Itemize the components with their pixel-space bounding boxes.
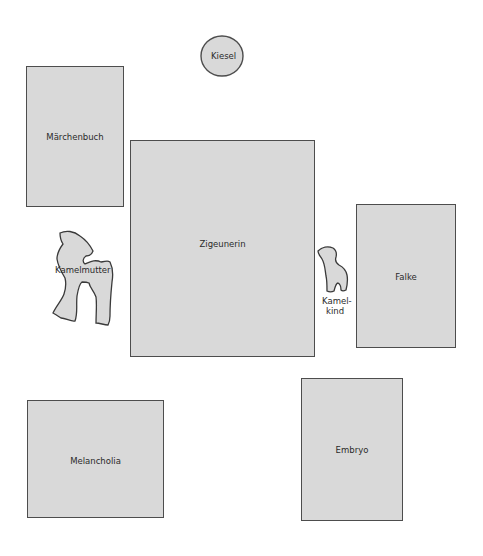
kamelkind-label-line1: Kamel- — [322, 296, 352, 306]
kamelmutter-shape — [53, 231, 113, 325]
maerchenbuch-label: Märchenbuch — [46, 132, 103, 142]
melancholia-label: Melancholia — [70, 456, 121, 466]
falke-label: Falke — [395, 272, 417, 282]
kamelmutter-label: Kamelmutter — [55, 265, 111, 275]
maerchenbuch-box: Märchenbuch — [26, 66, 124, 207]
kamelkind-shape — [318, 247, 347, 292]
falke-box: Falke — [356, 204, 456, 348]
melancholia-box: Melancholia — [27, 400, 164, 518]
embryo-box: Embryo — [301, 378, 403, 521]
embryo-label: Embryo — [336, 445, 369, 455]
zigeunerin-label: Zigeunerin — [199, 239, 245, 249]
kamelkind-label-line2: kind — [326, 306, 344, 316]
zigeunerin-box: Zigeunerin — [130, 140, 315, 357]
kiesel-label: Kiesel — [211, 51, 236, 61]
diagram-canvas: Kiesel Kamelmutter Kamel- kind Märchenbu… — [0, 0, 483, 556]
